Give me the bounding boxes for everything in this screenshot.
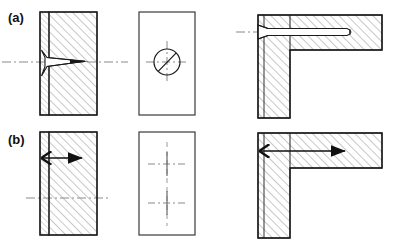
b-corner-body [258,133,382,238]
panel-label-b: (b) [8,132,25,147]
view-b-corner [258,133,382,238]
view-a-face [139,12,195,115]
view-b-face [139,132,195,235]
b-section-surface-layer [40,132,49,235]
view-a-corner [236,15,382,118]
b-section-body [49,132,97,235]
figure-canvas [0,0,397,247]
view-a-section [2,12,128,115]
b-face-outline [139,132,195,235]
panel-label-a: (a) [8,10,24,25]
view-b-section [26,132,108,235]
engineering-figure: (a) (b) [0,0,397,247]
